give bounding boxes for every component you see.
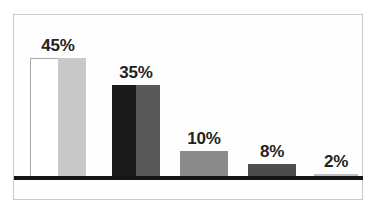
bar-1-left-segment xyxy=(30,58,58,178)
plot-area: 45% 35% 10% 8% xyxy=(14,15,362,178)
bar-2-right-segment xyxy=(136,85,160,178)
bar-chart: 45% 35% 10% 8% xyxy=(0,0,379,219)
bar-3-segment xyxy=(180,151,228,178)
bar-1 xyxy=(30,58,86,178)
axis-baseline xyxy=(14,176,363,180)
bar-group-1: 45% xyxy=(30,58,86,178)
bar-value-label-4: 8% xyxy=(260,143,284,160)
bar-value-label-5: 2% xyxy=(324,153,348,170)
bar-value-label-1: 45% xyxy=(41,37,74,54)
bar-group-2: 35% xyxy=(112,85,160,178)
bar-3 xyxy=(180,151,228,178)
bottom-caption xyxy=(120,209,290,217)
bar-1-right-segment xyxy=(58,58,86,178)
bar-value-label-2: 35% xyxy=(119,64,152,81)
bar-2-left-segment xyxy=(112,85,136,178)
bar-value-label-3: 10% xyxy=(187,130,220,147)
bar-2 xyxy=(112,85,160,178)
bar-group-3: 10% xyxy=(180,151,228,178)
